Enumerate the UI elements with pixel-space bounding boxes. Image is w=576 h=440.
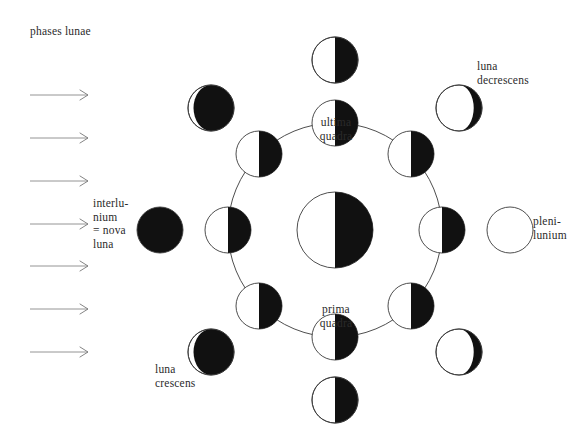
appearance-moon-waning-gibbous — [436, 85, 482, 131]
orbit-moon-interlunium — [205, 207, 251, 253]
appearance-moon-plenilunium — [487, 207, 533, 253]
appearance-moon-waning-crescent — [188, 85, 234, 131]
label-plenilunium: pleni- lunium — [533, 215, 567, 242]
orbit-moon-upper-left — [236, 131, 282, 177]
orbit-moon-plenilunium — [419, 207, 465, 253]
lunar-phases-diagram: phases lunae interlu- nium = nova luna l… — [0, 0, 576, 440]
label-ultima-quadra: ultima quadra — [303, 116, 369, 143]
label-luna-decrescens: luna decrescens — [477, 60, 529, 87]
orbit-moon-lower-left — [236, 283, 282, 329]
earth-body — [297, 192, 373, 268]
label-interlunium: interlu- nium = nova luna — [93, 197, 128, 251]
appearance-moon-ultima-quadra — [312, 37, 358, 83]
appearance-moon-waxing-gibbous — [436, 329, 482, 375]
appearance-moon-prima-quadra — [312, 377, 358, 423]
earth-disc — [297, 192, 373, 268]
appearance-moon-interlunium — [137, 207, 183, 253]
label-luna-crescens: luna crescens — [155, 363, 196, 390]
label-prima-quadra: prima quadra — [303, 303, 369, 330]
sunlight-arrows-group — [30, 95, 88, 352]
orbit-moon-lower-right — [388, 283, 434, 329]
orbit-moon-upper-right — [388, 131, 434, 177]
